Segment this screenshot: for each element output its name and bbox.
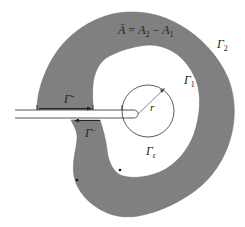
j-integral-contour-diagram: Ā = A2 − A1 Γ2 Γ1 Γ+ Γ− Γε r [0,0,245,227]
contour-marker-2 [76,179,79,182]
crack [15,110,138,118]
contour-marker-1 [119,169,122,172]
radius-label: r [150,101,155,113]
gamma1-label: Γ1 [183,73,195,89]
gamma2-label: Γ2 [216,37,228,53]
equation-label: Ā = A2 − A1 [117,23,174,39]
gamma-epsilon-label: Γε [145,144,157,160]
